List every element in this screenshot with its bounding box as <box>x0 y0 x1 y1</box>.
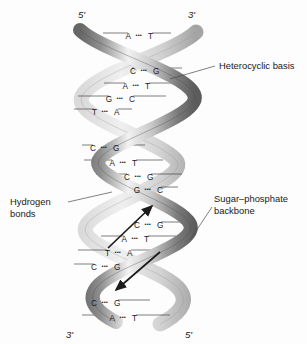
hydrogen-bond-symbol: ▪▪▪ <box>102 108 108 114</box>
base-left: A <box>110 159 116 168</box>
base-left: C <box>90 144 96 153</box>
annotation-sugar-phosphate-backbone: Sugar–phosphate backbone <box>190 193 288 240</box>
base-left: C <box>91 299 97 308</box>
base-right: A <box>114 108 120 117</box>
base-pair: C▪▪▪G <box>130 67 159 76</box>
base-left: C <box>134 221 140 230</box>
terminal-3-prime-bottom-left: 3' <box>66 329 74 340</box>
hydrogen-bond-symbol: ▪▪▪ <box>102 263 108 269</box>
terminal-5-prime-top-left: 5' <box>78 9 86 20</box>
hydrogen-bond-symbol: ▪▪▪ <box>102 299 108 305</box>
hydrogen-bond-symbol: ▪▪▪ <box>135 173 141 179</box>
base-right: C <box>129 95 135 104</box>
base-pair: C▪▪▪G <box>91 299 120 308</box>
base-left: C <box>124 173 130 182</box>
terminal-3-prime-top-right: 3' <box>188 9 196 20</box>
base-left: A <box>123 82 129 91</box>
base-right: G <box>113 144 119 153</box>
base-pair: G▪▪▪C <box>106 95 135 104</box>
annotation-heterocyclic-basis: Heterocyclic basis <box>170 60 295 79</box>
annotation-label-line1: Sugar–phosphate <box>214 193 288 204</box>
base-pair: A▪▪▪T <box>110 159 137 168</box>
base-pair: A▪▪▪T <box>110 314 137 323</box>
dna-double-helix-figure: A▪▪▪T C▪▪▪G A▪▪▪T G▪▪▪C T▪▪▪A C▪▪▪G A▪▪▪… <box>0 0 307 344</box>
base-pair: C▪▪▪G <box>134 221 163 230</box>
base-right: T <box>132 314 137 323</box>
base-right: T <box>148 32 153 41</box>
base-left: C <box>91 263 97 272</box>
hydrogen-bond-symbol: ▪▪▪ <box>133 82 139 88</box>
annotation-label-line2: bonds <box>10 208 36 219</box>
base-left: C <box>130 67 136 76</box>
base-right: T <box>132 159 137 168</box>
base-right: G <box>114 263 120 272</box>
base-pair: A▪▪▪T <box>126 32 153 41</box>
base-left: T <box>92 108 97 117</box>
annotation-label: Heterocyclic basis <box>219 60 295 71</box>
hydrogen-bond-symbol: ▪▪▪ <box>141 67 147 73</box>
base-right: C <box>157 186 163 195</box>
base-right: G <box>153 67 159 76</box>
hydrogen-bond-symbol: ▪▪▪ <box>145 221 151 227</box>
base-left: G <box>106 95 112 104</box>
annotation-label-line1: Hydrogen <box>10 196 51 207</box>
base-pair: A▪▪▪T <box>123 82 150 91</box>
base-right: A <box>127 249 133 258</box>
terminal-5-prime-bottom-right: 5' <box>185 329 193 340</box>
base-pair: C▪▪▪G <box>91 263 120 272</box>
hydrogen-bond-symbol: ▪▪▪ <box>132 235 138 241</box>
base-left: G <box>134 186 140 195</box>
base-pair: C▪▪▪G <box>124 173 153 182</box>
base-pair: A▪▪▪T <box>122 235 149 244</box>
hydrogen-bond-symbol: ▪▪▪ <box>136 32 142 38</box>
base-right: G <box>147 173 153 182</box>
base-left: A <box>110 314 116 323</box>
leader-line <box>68 192 112 202</box>
hydrogen-bond-symbol: ▪▪▪ <box>117 95 123 101</box>
hydrogen-bond-symbol: ▪▪▪ <box>101 144 107 150</box>
base-right: G <box>114 299 120 308</box>
hydrogen-bond-symbol: ▪▪▪ <box>115 249 121 255</box>
annotation-label-line2: backbone <box>214 205 255 216</box>
base-right: T <box>145 82 150 91</box>
hydrogen-bond-symbol: ▪▪▪ <box>120 159 126 165</box>
base-right: G <box>157 221 163 230</box>
base-left: A <box>126 32 132 41</box>
base-right: T <box>144 235 149 244</box>
base-left: T <box>105 249 110 258</box>
hydrogen-bond-symbol: ▪▪▪ <box>145 186 151 192</box>
hydrogen-bond-symbol: ▪▪▪ <box>120 314 126 320</box>
base-left: A <box>122 235 128 244</box>
